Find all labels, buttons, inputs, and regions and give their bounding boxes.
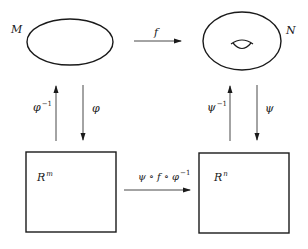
label-rn-base: R — [214, 171, 222, 184]
label-phi-inverse-exp: −1 — [42, 100, 52, 108]
label-composite-exp: −1 — [180, 169, 190, 177]
label-composite-base: ψ ∘ f ∘ φ — [138, 171, 179, 182]
manifold-n-torus-shape — [203, 12, 281, 70]
label-psi-inverse-exp: −1 — [217, 100, 227, 108]
label-m: M — [11, 24, 22, 35]
box-rn-shape — [199, 153, 289, 233]
label-rm-exp: m — [46, 170, 53, 178]
commutative-diagram: M N f φ−1 φ ψ−1 ψ Rm Rn ψ ∘ f ∘ φ−1 — [0, 0, 308, 249]
label-psi-inverse-base: ψ — [207, 101, 216, 114]
label-n: N — [286, 25, 296, 36]
label-composite: ψ ∘ f ∘ φ−1 — [138, 170, 190, 182]
label-rm: Rm — [37, 171, 53, 183]
label-phi-inverse: φ−1 — [33, 101, 52, 113]
label-rm-base: R — [37, 171, 45, 184]
label-rn-exp: n — [223, 170, 228, 178]
label-f: f — [154, 27, 158, 38]
label-psi-inverse: ψ−1 — [207, 101, 227, 113]
box-rm-shape — [26, 152, 116, 232]
label-phi-inverse-base: φ — [33, 101, 41, 114]
label-rn: Rn — [214, 171, 228, 183]
label-phi: φ — [92, 103, 100, 114]
manifold-m-shape — [27, 19, 113, 65]
label-psi: ψ — [265, 103, 274, 114]
